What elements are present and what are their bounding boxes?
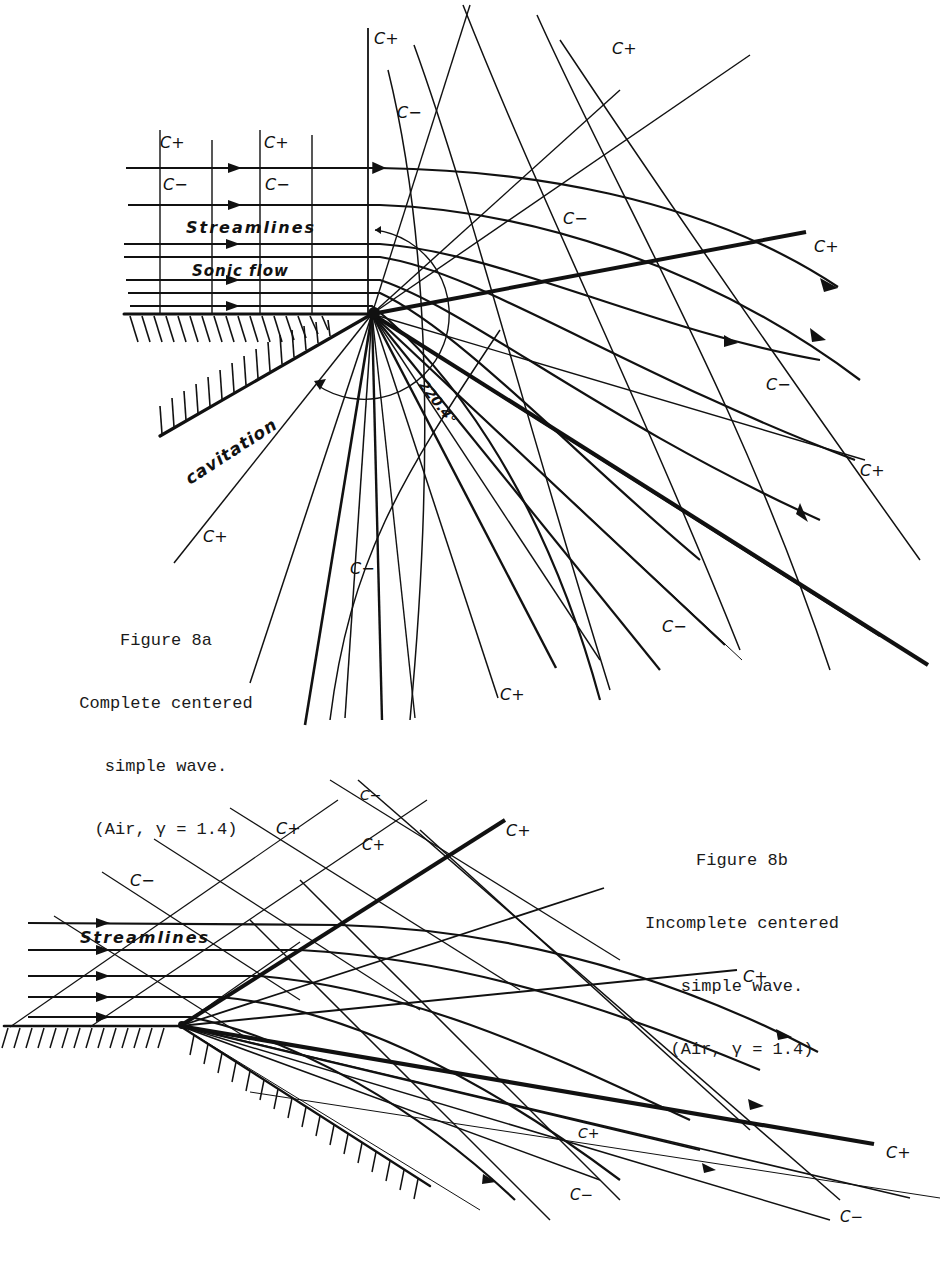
svg-text:C−: C− <box>662 617 687 636</box>
svg-text:cavitation: cavitation <box>181 414 281 488</box>
svg-text:C+: C+ <box>578 1125 600 1141</box>
svg-text:C−: C− <box>766 375 791 394</box>
svg-text:C+: C+ <box>860 461 885 480</box>
svg-text:C−: C− <box>397 103 422 122</box>
svg-text:C+: C+ <box>276 819 301 838</box>
corner-point <box>368 307 380 319</box>
svg-text:Streamlines: Streamlines <box>186 218 316 237</box>
svg-text:C+: C+ <box>886 1143 911 1162</box>
wall-horizontal-b <box>2 1026 180 1048</box>
svg-text:C+: C+ <box>362 836 385 854</box>
svg-text:C+: C+ <box>506 821 531 840</box>
svg-text:Streamlines: Streamlines <box>80 928 210 947</box>
svg-text:C+: C+ <box>374 29 399 48</box>
caption-8b-line1: Figure 8b <box>632 850 852 871</box>
svg-text:C+: C+ <box>160 133 185 152</box>
wall-horizontal <box>124 314 372 342</box>
svg-text:C−: C− <box>840 1208 863 1226</box>
svg-text:C+: C+ <box>264 133 289 152</box>
caption-figure-8b: Figure 8b Incomplete centered simple wav… <box>632 808 852 1081</box>
caption-figure-8a: Figure 8a Complete centered simple wave.… <box>66 588 266 861</box>
svg-text:Sonic flow: Sonic flow <box>192 262 289 280</box>
svg-text:C−: C− <box>360 787 382 803</box>
caption-8a-line3: simple wave. <box>66 756 266 777</box>
svg-text:C−: C− <box>570 1186 593 1204</box>
caption-8a-line4: (Air, γ = 1.4) <box>66 819 266 840</box>
svg-text:C−: C− <box>350 559 375 578</box>
caption-8a-line1: Figure 8a <box>66 630 266 651</box>
caption-8a-line2: Complete centered <box>66 693 266 714</box>
expansion-fan <box>174 5 928 725</box>
svg-text:C−: C− <box>163 175 188 194</box>
svg-text:C−: C− <box>563 209 588 228</box>
caption-8b-line3: simple wave. <box>632 976 852 997</box>
svg-text:C+: C+ <box>203 527 228 546</box>
svg-text:C+: C+ <box>500 685 525 704</box>
corner-point-b <box>178 1021 186 1029</box>
svg-text:C+: C+ <box>814 237 839 256</box>
wall-sloped-b <box>180 1026 430 1199</box>
caption-8b-line2: Incomplete centered <box>632 913 852 934</box>
svg-text:C−: C− <box>265 175 290 194</box>
svg-text:C−: C− <box>130 871 155 890</box>
caption-8b-line4: (Air, γ = 1.4) <box>632 1039 852 1060</box>
svg-text:C+: C+ <box>612 39 637 58</box>
